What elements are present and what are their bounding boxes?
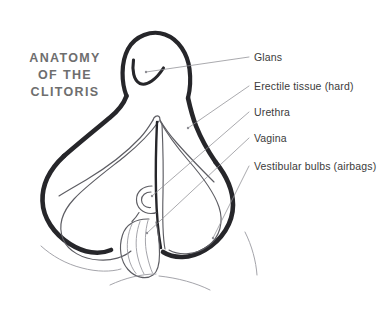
urethra-ring-inner-path <box>142 192 152 208</box>
label-vagina: Vagina <box>254 132 287 144</box>
vagina-rugae-2-path <box>136 222 144 275</box>
shaft-left-path <box>64 96 127 156</box>
bulb-left-path <box>61 121 159 260</box>
label-vestibular-bulbs: Vestibular bulbs (airbags) <box>254 160 376 172</box>
leader-vestibular-bulbs <box>213 166 249 238</box>
urethra-channel-left-path <box>156 122 161 248</box>
leader-dot-vagina <box>146 232 148 234</box>
title-line-1: ANATOMY <box>6 50 124 67</box>
title-line-2: OF THE <box>6 67 124 84</box>
title-line-3: CLITORIS <box>6 84 124 101</box>
vagina-oval-path <box>120 219 159 278</box>
label-glans: Glans <box>254 51 282 63</box>
apex-top-path <box>153 116 160 120</box>
leader-glans <box>146 57 249 72</box>
illustration-page: ANATOMY OF THE CLITORIS Glans Erectile t… <box>0 0 383 311</box>
vagina-rugae-1-path <box>127 224 136 274</box>
bulb-right-path <box>160 121 221 254</box>
label-urethra: Urethra <box>254 106 290 118</box>
leader-vagina <box>147 138 249 233</box>
outer-contour-lower-path <box>110 274 156 285</box>
diagram-title: ANATOMY OF THE CLITORIS <box>6 50 124 101</box>
leader-dot-vestibular-bulbs <box>212 237 214 239</box>
shaft-right-path <box>188 98 216 162</box>
leader-erectile-tissue <box>188 86 249 128</box>
clitoris-anatomy-diagram <box>0 0 383 311</box>
outer-contour-right-path <box>159 276 210 290</box>
leader-dot-erectile-tissue <box>187 127 189 129</box>
urethra-ring-outer-path <box>137 186 157 214</box>
outer-contour-right-upper-path <box>245 232 257 275</box>
leader-dot-glans <box>145 71 147 73</box>
apex-left-path <box>59 120 153 196</box>
crus-right-path <box>163 162 233 257</box>
glans-hook-path <box>133 60 164 84</box>
leader-dot-urethra <box>151 195 153 197</box>
label-erectile-tissue: Erectile tissue (hard) <box>254 80 354 92</box>
